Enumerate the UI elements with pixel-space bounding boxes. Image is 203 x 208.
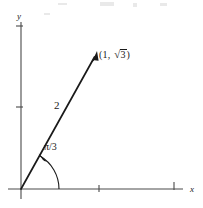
radicand-value: 3 [120, 49, 126, 61]
square-root-expression: √3 [113, 49, 126, 61]
angle-arc [40, 156, 59, 189]
y-axis-label: y [17, 12, 21, 21]
scan-noise-group [44, 2, 167, 15]
vector-endpoint-label: (1, √3 ) [99, 49, 130, 61]
vector-angle-label: π/3 [44, 142, 57, 152]
vector-ray-line [21, 57, 95, 189]
vector-arrowhead [92, 51, 99, 63]
coordinate-diagram-svg [0, 0, 203, 208]
endpoint-open-paren: (1, [99, 49, 110, 60]
endpoint-close-paren: ) [127, 49, 131, 60]
math-figure-canvas: y x 2 π/3 (1, √3 ) [0, 0, 203, 208]
radical-sign-icon: √ [114, 48, 120, 60]
vector-magnitude-label: 2 [54, 100, 60, 111]
x-axis-label: x [190, 185, 194, 194]
